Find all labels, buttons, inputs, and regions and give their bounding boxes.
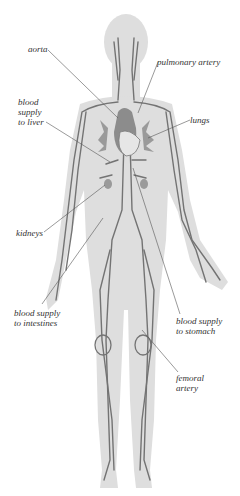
label-lungs: lungs — [190, 115, 210, 125]
label-femoral-artery: femoralartery — [176, 373, 204, 393]
label-kidneys: kidneys — [16, 228, 43, 238]
label-blood-supply-to-intestines: blood supplyto intestines — [14, 308, 60, 328]
label-blood-supply-to-stomach: blood supplyto stomach — [176, 316, 222, 336]
body-illustration — [0, 0, 240, 496]
circulatory-system-diagram: aorta pulmonary artery bloodsupplyto liv… — [0, 0, 240, 496]
label-pulmonary-artery: pulmonary artery — [157, 57, 220, 67]
label-aorta: aorta — [28, 44, 48, 54]
label-blood-supply-to-liver: bloodsupplyto liver — [18, 97, 44, 127]
